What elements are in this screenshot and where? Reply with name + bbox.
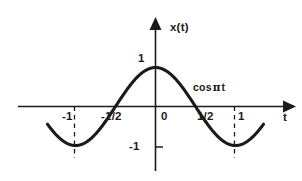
vertical-axis [150, 17, 162, 171]
vertical-axis-label: x(t) [170, 22, 189, 34]
pi-symbol: π [212, 81, 222, 93]
curve-equation-suffix: t [222, 81, 226, 93]
curve-equation-prefix: cos [193, 81, 212, 93]
curve-equation-label: cosπt [193, 82, 225, 93]
x-tick-label-minus-one: -1 [62, 111, 73, 123]
origin-label: 0 [161, 111, 168, 123]
cosine-waveform-figure: x(t) t 0 1 -1 -1 -1/2 1/2 1 cosπt [0, 0, 302, 181]
x-tick-label-half: 1/2 [197, 111, 214, 123]
horizontal-axis-label: t [283, 112, 287, 124]
y-tick-label-minus-one: -1 [129, 141, 140, 153]
x-tick-label-one: 1 [238, 111, 245, 123]
horizontal-axis [18, 101, 296, 113]
x-tick-label-minus-half: -1/2 [101, 111, 122, 123]
vertical-axis-arrowhead-icon [150, 17, 162, 30]
y-tick-label-one: 1 [138, 53, 145, 65]
plot-canvas [0, 0, 302, 181]
